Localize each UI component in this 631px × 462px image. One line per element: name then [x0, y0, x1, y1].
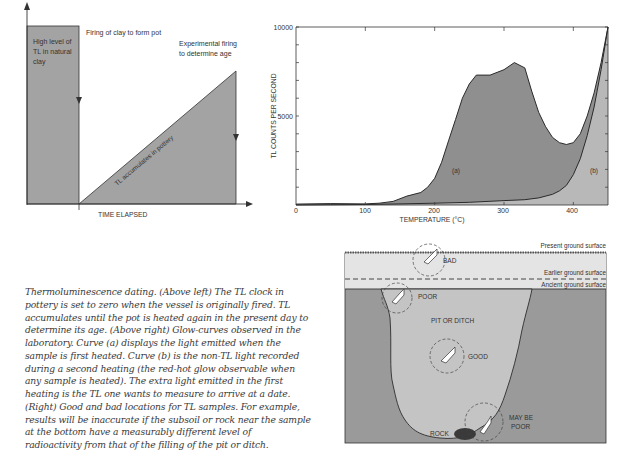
good-label: GOOD — [468, 353, 488, 360]
caption-line: (Right) Good and bad locations for TL sa… — [25, 401, 305, 414]
may-be-poor-label-2: POOR — [511, 423, 530, 430]
experimental-label-2: to determine age — [179, 50, 232, 58]
natural-clay-label-1: High level of — [33, 38, 72, 46]
caption-line: laboratory. Curve (a) displays the light… — [25, 337, 305, 350]
present-surface-label: Present ground surface — [541, 242, 607, 250]
x-tick-100: 100 — [359, 207, 371, 214]
arrow-up-icon — [24, 2, 30, 10]
natural-clay-label-3: clay — [33, 58, 46, 66]
glow-curve-chart: 10000 5000 0 100 200 300 400 TEMPERATURE… — [270, 24, 608, 224]
ancient-surface-label: Ancient ground surface — [541, 281, 606, 289]
caption-line: heating is the TL one wants to measure t… — [25, 388, 305, 401]
caption-line: during a second heating (the red-hot glo… — [25, 363, 305, 376]
caption-line: pottery is set to zero when the vessel i… — [25, 299, 305, 312]
caption-line: determine its age. (Above right) Glow-cu… — [25, 324, 305, 337]
caption-line: Thermoluminescence dating. (Above left) … — [25, 286, 305, 299]
accumulation-triangle — [79, 71, 236, 204]
x-tick-400: 400 — [566, 207, 578, 214]
curve-b-label: (b) — [590, 167, 598, 175]
x-tick-0: 0 — [294, 207, 298, 214]
site-section-diagram: Present ground surface Earlier ground su… — [345, 242, 606, 443]
y-axis-label: TL COUNTS PER SECOND — [270, 73, 277, 158]
y-tick-5000: 5000 — [277, 113, 293, 120]
tl-clock-diagram: High level of TL in natural clay Firing … — [24, 2, 253, 218]
y-tick-10000: 10000 — [274, 24, 294, 31]
x-axis-label: TEMPERATURE (°C) — [400, 216, 465, 224]
poor-label: POOR — [418, 293, 437, 300]
caption-line: results will be inaccurate if the subsoi… — [25, 414, 305, 427]
caption-line: sample is first heated. Curve (b) is the… — [25, 350, 305, 363]
pit-label: PIT OR DITCH — [431, 317, 475, 324]
arrow-right-icon — [246, 201, 253, 207]
caption-line: at the bottom have a measurably differen… — [25, 426, 305, 439]
firing-label: Firing of clay to form pot — [86, 29, 161, 37]
may-be-poor-label-1: MAY BE — [509, 414, 534, 421]
x-axis-label: TIME ELAPSED — [98, 211, 148, 218]
caption-line: any sample is heated). The extra light e… — [25, 375, 305, 388]
bad-label: BAD — [443, 257, 457, 264]
natural-clay-label-2: TL in natural — [33, 48, 72, 55]
curve-a-label: (a) — [452, 167, 460, 175]
earlier-surface-label: Earlier ground surface — [544, 269, 606, 277]
x-tick-300: 300 — [497, 207, 509, 214]
rock-label: ROCK — [430, 430, 449, 437]
experimental-label-1: Experimental firing — [179, 40, 237, 48]
figure-caption: Thermoluminescence dating. (Above left) … — [25, 286, 305, 452]
caption-line: radioactivity from that of the filling o… — [25, 439, 305, 452]
rock — [454, 428, 476, 440]
caption-line: accumulates until the pot is heated agai… — [25, 312, 305, 325]
curve-a-area — [296, 27, 608, 205]
x-tick-200: 200 — [428, 207, 440, 214]
